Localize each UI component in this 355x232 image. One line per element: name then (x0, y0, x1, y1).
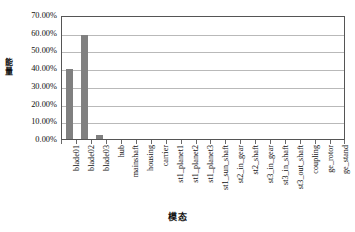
x-axis-title: 模态 (0, 210, 355, 223)
x-axis-category-label: blade03 (102, 145, 111, 207)
x-axis-tick (344, 140, 345, 144)
bar-slot (137, 17, 152, 139)
bar-slot (182, 17, 197, 139)
x-axis-category-label: blade01 (72, 145, 81, 207)
y-axis-tick-label: 50.00% (31, 47, 57, 55)
x-axis-category-label: st3_in_shaft (281, 145, 290, 207)
x-axis-tick (181, 140, 182, 144)
x-axis-tick (136, 140, 137, 144)
bar-slot (241, 17, 256, 139)
x-axis-category-label: st2_in_gear (236, 145, 245, 207)
x-axis-tick (210, 140, 211, 144)
x-axis-tick (270, 140, 271, 144)
y-axis-title: 能量 (2, 58, 16, 76)
bar-slot (77, 17, 92, 139)
bar-slot (197, 17, 212, 139)
x-axis-tick (330, 140, 331, 144)
x-axis-tick (61, 140, 62, 144)
x-axis-category-labels: blade01blade02blade03hubmainshafthousing… (61, 145, 345, 207)
x-axis-category-label: coupling (311, 145, 320, 207)
bar (96, 135, 103, 139)
x-axis-tick (121, 140, 122, 144)
x-axis-tick (255, 140, 256, 144)
bar-slot (62, 17, 77, 139)
x-axis-category-label: st2_shaft (251, 145, 260, 207)
x-axis-tick (225, 140, 226, 144)
y-axis-tick-label: 20.00% (31, 100, 57, 108)
y-axis-tick-label: 0.00% (35, 136, 57, 144)
x-axis-tick (315, 140, 316, 144)
y-axis-tick-label: 10.00% (31, 118, 57, 126)
x-axis-category-label: st3_out_shaft (296, 145, 305, 207)
x-axis-tick (300, 140, 301, 144)
x-axis-tick (166, 140, 167, 144)
x-axis-category-label: st1_sun_shaft (221, 145, 230, 207)
bar-slot (316, 17, 331, 139)
y-axis-tick-label: 60.00% (31, 30, 57, 38)
bar-slot (286, 17, 301, 139)
bar-slot (211, 17, 226, 139)
x-axis-category-label: ge_stand (341, 145, 350, 207)
bar-slot (107, 17, 122, 139)
bar-slot (331, 17, 346, 139)
plot-area (61, 16, 345, 140)
x-axis-category-label: mainshaft (131, 145, 140, 207)
y-axis-tick-label: 40.00% (31, 65, 57, 73)
bar-slot (152, 17, 167, 139)
x-axis-category-label: hub (117, 145, 126, 207)
x-axis-category-label: ge_rotor (326, 145, 335, 207)
y-axis-tick-label: 30.00% (31, 83, 57, 91)
y-axis-tick-label: 70.00% (31, 12, 57, 20)
bar-slot (301, 17, 316, 139)
x-axis-tick (285, 140, 286, 144)
bar (81, 35, 88, 139)
y-axis-title-text: 能量 (2, 58, 16, 76)
x-axis-category-label: blade02 (87, 145, 96, 207)
x-axis-tick (91, 140, 92, 144)
x-axis-category-label: st1_planet1 (176, 145, 185, 207)
x-axis-category-label: st1_planet3 (206, 145, 215, 207)
x-axis-tick (76, 140, 77, 144)
y-axis-tick-labels: 70.00%60.00%50.00%40.00%30.00%20.00%10.0… (16, 12, 60, 140)
bar-slot (256, 17, 271, 139)
bar-slot (226, 17, 241, 139)
x-axis-tick (196, 140, 197, 144)
x-axis-category-label: carrier (161, 145, 170, 207)
bar-slot (271, 17, 286, 139)
bar-slot (167, 17, 182, 139)
x-axis-tick (151, 140, 152, 144)
x-axis-tick (106, 140, 107, 144)
bar (66, 69, 73, 140)
x-axis-category-label: st1_planet2 (191, 145, 200, 207)
bar-series (62, 17, 344, 139)
x-axis-category-label: st3_in_gear (266, 145, 275, 207)
bar-chart: 能量 70.00%60.00%50.00%40.00%30.00%20.00%1… (0, 0, 355, 232)
bar-slot (122, 17, 137, 139)
x-axis-tick (240, 140, 241, 144)
bar-slot (92, 17, 107, 139)
x-axis-category-label: housing (146, 145, 155, 207)
